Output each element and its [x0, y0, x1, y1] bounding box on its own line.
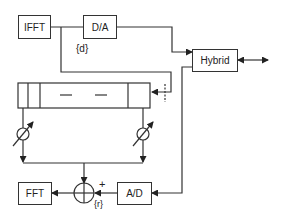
ad-label: A/D	[126, 188, 143, 199]
r-label: {r}	[94, 199, 103, 209]
hybrid-block: Hybrid	[192, 49, 238, 72]
ad-block: A/D	[117, 182, 152, 205]
ifft-block: IFFT	[18, 15, 51, 39]
fft-label: FFT	[26, 188, 44, 199]
ifft-label: IFFT	[24, 22, 45, 33]
hybrid-label: Hybrid	[201, 55, 230, 66]
da-label: D/A	[92, 22, 109, 33]
fft-block: FFT	[18, 182, 52, 205]
da-block: D/A	[83, 15, 117, 39]
block-diagram: IFFT D/A Hybrid FFT A/D {d} {r} +	[0, 0, 283, 224]
d-label: {d}	[76, 43, 88, 54]
plus-sign: +	[99, 178, 105, 190]
